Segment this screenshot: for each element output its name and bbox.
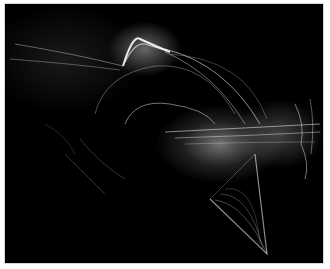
light-trails bbox=[5, 4, 324, 264]
abstract-light-image bbox=[4, 3, 324, 264]
